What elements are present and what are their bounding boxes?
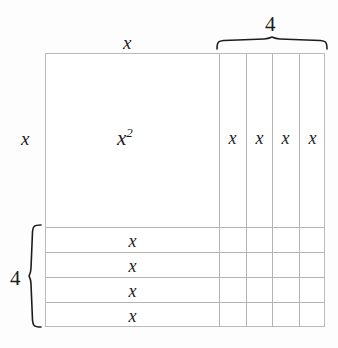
horizontal-divider-main — [46, 227, 325, 228]
vertical-divider-main — [219, 54, 220, 327]
row-label-2: x — [46, 257, 219, 275]
horizontal-divider-2 — [46, 277, 325, 278]
column-label-4: x — [299, 129, 326, 147]
x-squared-exponent: 2 — [126, 125, 133, 140]
top-side-label: x — [123, 33, 131, 52]
left-side-label: x — [21, 129, 29, 148]
algebra-area-model-figure: x x x2 x x x x x x x x 4 4 — [0, 0, 338, 348]
left-curly-brace-icon — [28, 224, 42, 328]
column-label-3: x — [272, 129, 299, 147]
top-brace-label: 4 — [265, 14, 276, 35]
vertical-divider-3 — [299, 54, 300, 327]
row-label-1: x — [46, 232, 219, 250]
vertical-divider-1 — [246, 54, 247, 327]
horizontal-divider-3 — [46, 302, 325, 303]
column-label-1: x — [219, 129, 246, 147]
row-label-4: x — [46, 307, 219, 325]
top-curly-brace-icon — [216, 36, 328, 50]
vertical-divider-2 — [272, 54, 273, 327]
horizontal-divider-1 — [46, 252, 325, 253]
left-brace-label: 4 — [10, 268, 21, 289]
row-label-3: x — [46, 282, 219, 300]
x-squared-base: x — [117, 126, 126, 150]
column-label-2: x — [246, 129, 273, 147]
x-squared-label: x2 — [117, 126, 133, 149]
